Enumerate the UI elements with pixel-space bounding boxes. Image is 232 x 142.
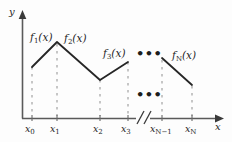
axis-break-slash-1 — [137, 111, 144, 124]
x-axis-label: x — [215, 122, 221, 132]
function-label-f1-arg: (x) — [38, 31, 52, 43]
tick-label-x2: x2 — [93, 124, 103, 136]
tick-label-x2-sub: 2 — [98, 128, 102, 136]
tick-label-xN-1: xN−1 — [150, 124, 172, 136]
x-axis — [22, 115, 224, 123]
tick-label-x3: x3 — [121, 124, 131, 136]
function-label-f1: f1(x) — [30, 32, 52, 45]
figure-canvas — [0, 0, 232, 142]
tick-label-x0: x0 — [25, 124, 35, 136]
function-label-fN: fN(x) — [172, 50, 196, 63]
function-label-f2: f2(x) — [64, 33, 86, 46]
tick-label-x0-sub: 0 — [30, 128, 34, 136]
function-label-fN-arg: (x) — [182, 49, 196, 61]
upper-ellipsis: ••• — [136, 47, 162, 60]
y-axis-label: y — [9, 7, 15, 17]
function-label-f3-arg: (x) — [111, 47, 125, 59]
y-axis — [19, 10, 27, 119]
function-label-f2-arg: (x) — [72, 32, 86, 44]
lower-ellipsis: ••• — [136, 88, 162, 101]
tick-label-x1: x1 — [50, 124, 60, 136]
tick-label-xN: xN — [185, 124, 196, 136]
tick-label-xN-1-sub: N−1 — [155, 128, 171, 136]
tick-label-x1-sub: 1 — [55, 128, 59, 136]
y-axis-arrowhead — [19, 10, 27, 19]
function-label-f3: f3(x) — [103, 48, 125, 61]
axis-break-mark — [137, 111, 151, 124]
tick-label-xN-sub: N — [190, 128, 196, 136]
tick-label-x3-sub: 3 — [126, 128, 130, 136]
piecewise-function-figure: y x f1(x) f2(x) f3(x) fN(x) ••• ••• x0 x… — [0, 0, 232, 142]
